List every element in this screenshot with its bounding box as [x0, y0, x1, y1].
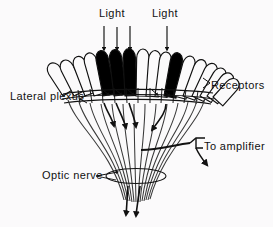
electrode-hook-icon	[190, 138, 205, 148]
optic-nerve-axons	[68, 98, 205, 202]
label-light-right: Light	[152, 8, 178, 19]
label-optic-nerve: Optic nerve	[42, 170, 103, 181]
receptor-illuminated	[123, 48, 138, 96]
limulus-eye-diagram	[0, 0, 273, 227]
label-lateral-plexus: Lateral plexus	[10, 91, 84, 102]
label-light-left: Light	[99, 8, 125, 19]
label-to-amplifier: To amplifier	[204, 141, 265, 152]
light-arrows-left	[104, 26, 130, 50]
figure-canvas: Light Light Receptors Lateral plexus To …	[0, 0, 273, 227]
label-receptors: Receptors	[211, 80, 265, 91]
